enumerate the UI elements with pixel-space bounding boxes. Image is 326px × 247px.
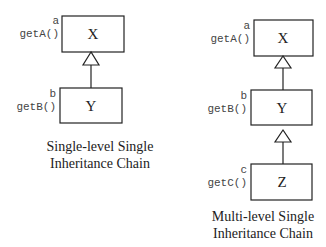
class-name: Z bbox=[277, 174, 286, 190]
generalization-triangle-icon bbox=[83, 52, 99, 65]
caption-line-1: Single-level Single bbox=[47, 139, 154, 154]
right-diagram: X a getA() Y b getB() Z c getC() Multi-l… bbox=[207, 20, 314, 241]
class-name: X bbox=[88, 26, 99, 42]
caption-line-1: Multi-level Single bbox=[212, 209, 314, 224]
class-z: Z c getC() bbox=[207, 164, 312, 200]
class-name: Y bbox=[277, 100, 288, 116]
attribute-label: b bbox=[49, 88, 56, 100]
class-y: Y b getB() bbox=[207, 90, 312, 125]
class-y: Y b getB() bbox=[16, 88, 122, 123]
method-label: getB() bbox=[16, 101, 56, 113]
method-label: getA() bbox=[210, 33, 250, 45]
class-name: X bbox=[278, 30, 289, 46]
class-x: X a getA() bbox=[19, 15, 124, 52]
inheritance-arrow bbox=[83, 52, 99, 88]
class-x: X a getA() bbox=[210, 20, 313, 56]
method-label: getA() bbox=[19, 28, 59, 40]
method-label: getC() bbox=[207, 177, 247, 189]
caption-line-2: Inheritance Chain bbox=[50, 156, 150, 171]
inheritance-arrow bbox=[275, 56, 291, 90]
attribute-label: c bbox=[240, 164, 247, 176]
inheritance-diagrams: X a getA() Y b getB() Single-level Singl… bbox=[0, 0, 326, 247]
left-diagram: X a getA() Y b getB() Single-level Singl… bbox=[16, 15, 153, 171]
inheritance-arrow bbox=[275, 130, 291, 164]
generalization-triangle-icon bbox=[275, 56, 291, 68]
attribute-label: b bbox=[240, 90, 247, 102]
class-name: Y bbox=[86, 98, 97, 114]
attribute-label: a bbox=[243, 20, 250, 32]
attribute-label: a bbox=[52, 15, 59, 27]
generalization-triangle-icon bbox=[275, 130, 291, 142]
method-label: getB() bbox=[207, 103, 247, 115]
caption-line-2: Inheritance Chain bbox=[213, 226, 313, 241]
